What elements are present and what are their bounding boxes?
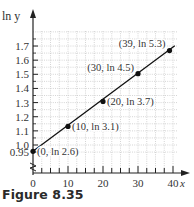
y-tick-label: 1.5 — [15, 68, 29, 80]
figure: 0.951.01.11.21.31.41.51.61.7010203040ln … — [0, 0, 194, 207]
line-chart: 0.951.01.11.21.31.41.51.61.7010203040ln … — [0, 0, 194, 207]
y-axis-arrow-icon — [30, 9, 36, 18]
x-tick-label: 40 — [168, 177, 180, 189]
x-tick-label: 30 — [133, 177, 145, 189]
x-tick-label: 20 — [98, 177, 110, 189]
data-point — [65, 124, 70, 129]
x-axis-arrow-icon — [181, 170, 190, 176]
point-label: (39, ln 5.3) — [119, 38, 166, 50]
point-label: (10, ln 3.1) — [72, 121, 119, 133]
y-tick-label: 1.3 — [15, 97, 29, 109]
y-axis-label: ln y — [2, 9, 20, 23]
data-point — [135, 71, 140, 76]
point-label: (0, ln 2.6) — [37, 146, 79, 158]
axis-break-icon — [30, 163, 36, 171]
point-label: (30, ln 4.5) — [87, 62, 134, 74]
point-label: (20, ln 3.7) — [107, 96, 154, 108]
y-tick-label: 1.2 — [15, 111, 29, 123]
data-point — [167, 48, 172, 53]
data-point — [30, 149, 35, 154]
y-tick-label: 1.0 — [15, 139, 29, 151]
y-tick-label: 1.7 — [15, 40, 29, 52]
data-point — [100, 99, 105, 104]
y-tick-label: 1.6 — [15, 54, 29, 66]
y-tick-label: 1.1 — [15, 125, 29, 137]
x-axis-label: x — [179, 177, 185, 189]
y-tick-label: 1.4 — [15, 82, 29, 94]
figure-caption: Figure 8.35 — [2, 187, 84, 202]
